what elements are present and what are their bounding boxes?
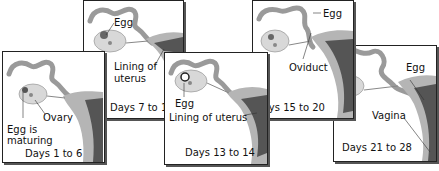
- egg-label: Egg: [323, 8, 342, 19]
- egg-label: Egg: [175, 98, 194, 109]
- lining-label: Lining of uterus: [169, 112, 247, 123]
- days-label: Days 1 to 6: [25, 148, 82, 159]
- days-label: Days 21 to 28: [342, 142, 412, 153]
- egg-label-line2: maturing: [7, 135, 53, 146]
- ovary-label: Ovary: [43, 112, 73, 123]
- panel-days-13-to-14: Egg Lining of uterus Days 13 to 14: [164, 52, 268, 165]
- oviduct-label: Oviduct: [289, 62, 328, 73]
- lining-label: Lining of: [114, 61, 157, 72]
- days-label: Days 13 to 14: [185, 147, 255, 158]
- egg-label: Egg: [406, 62, 425, 73]
- egg-label: Egg is: [7, 124, 37, 135]
- vagina-label: Vagina: [372, 110, 406, 121]
- egg-label: Egg: [114, 17, 133, 28]
- panel-days-1-to-6: Ovary Egg is maturing Days 1 to 6: [2, 51, 105, 163]
- lining-label-line2: uterus: [114, 73, 146, 84]
